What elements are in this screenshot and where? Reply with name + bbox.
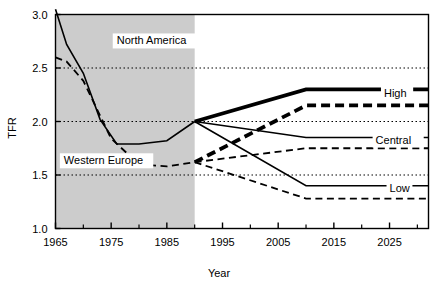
- western-europe-label: Western Europe: [64, 154, 143, 166]
- y-tick-label: 2.5: [32, 62, 47, 74]
- y-tick-label: 1.5: [32, 169, 47, 181]
- y-axis-title: TFR: [6, 117, 18, 138]
- x-tick-label: 1975: [99, 236, 123, 248]
- x-axis-title: Year: [208, 267, 231, 279]
- y-tick-label: 2.0: [32, 116, 47, 128]
- y-tick-label: 1.0: [32, 223, 47, 235]
- high-label: High: [384, 87, 407, 99]
- tfr-projection-chart: 1965197519851995200520152025 1.01.52.02.…: [0, 0, 438, 287]
- x-tick-label: 1995: [210, 236, 234, 248]
- x-tick-label: 1985: [155, 236, 179, 248]
- x-tick-label: 1965: [43, 236, 67, 248]
- central-label: Central: [376, 134, 411, 146]
- north-america-label: North America: [117, 34, 188, 46]
- chart-canvas: 1965197519851995200520152025 1.01.52.02.…: [0, 0, 438, 287]
- low-label: Low: [390, 182, 410, 194]
- y-tick-label: 3.0: [32, 9, 47, 21]
- x-tick-label: 2005: [266, 236, 290, 248]
- x-tick-label: 2015: [322, 236, 346, 248]
- x-tick-label: 2025: [377, 236, 401, 248]
